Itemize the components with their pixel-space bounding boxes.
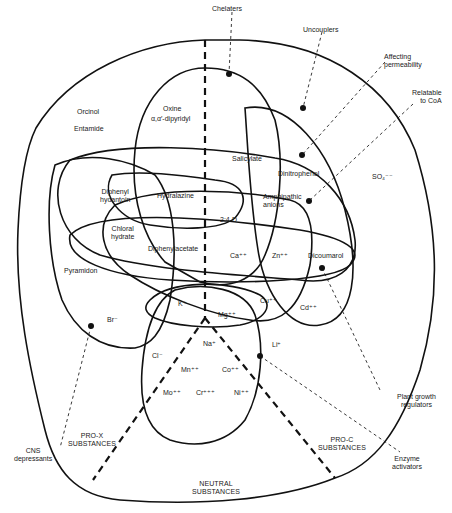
label-k: K⁺ xyxy=(178,300,187,308)
label-relatable-to-coa: Relatable to CoA xyxy=(412,89,442,105)
uncouplers-loop xyxy=(245,107,353,325)
label-ca: Ca⁺⁺ xyxy=(230,252,247,260)
label-mg: Mg⁺⁺ xyxy=(218,311,236,319)
region-pro-c: PRO-C SUBSTANCES xyxy=(318,436,366,452)
label-dinitrophenol: Dinitrophenol xyxy=(278,170,319,178)
label-mn: Mn⁺⁺ xyxy=(181,366,199,374)
label-entamide: Entamide xyxy=(74,125,104,133)
label-hydralazine: Hydralazine xyxy=(157,192,194,200)
label-salicylate: Salicylate xyxy=(232,155,262,163)
label-affecting-permeability: Affecting permeability xyxy=(384,53,422,69)
divider-right xyxy=(205,318,335,478)
label-plant-growth-regulators: Plant growth regulators xyxy=(397,393,436,409)
label-na: Na⁺ xyxy=(203,340,216,348)
label-cu: Cu⁺⁺ xyxy=(260,297,277,305)
label-uncouplers: Uncouplers xyxy=(303,26,338,34)
label-mo: Mo⁺⁺ xyxy=(163,389,181,397)
region-pro-x: PRO-X SUBSTANCES xyxy=(68,432,116,448)
label-ni: Ni⁺⁺ xyxy=(234,389,249,397)
label-br: Br⁻ xyxy=(107,316,118,324)
label-dicoumarol: Dicoumarol xyxy=(308,252,343,260)
label-dipyridyl: α,α′-dipyridyl xyxy=(151,115,190,123)
label-chelaters: Chelaters xyxy=(212,5,242,13)
label-diphenylacetate: Diphenylacetate xyxy=(148,245,198,253)
label-2-4-d: 2:4-D xyxy=(220,216,237,224)
label-cns-depressants: CNS depressants xyxy=(14,447,52,463)
label-pyramidon: Pyramidon xyxy=(64,267,97,275)
label-oxine: Oxine xyxy=(163,105,181,113)
label-cd: Cd⁺⁺ xyxy=(300,304,317,312)
label-li: Li⁺ xyxy=(272,341,281,349)
label-cr: Cr⁺⁺⁺ xyxy=(196,389,215,397)
venn-diagram: Chelaters Uncouplers Affecting permeabil… xyxy=(0,0,452,513)
label-chloral-hydrate: Chloral hydrate xyxy=(111,225,134,241)
label-so4: SO₄⁻⁻ xyxy=(372,173,393,181)
label-diphenyl-hydantoin: Diphenyl hydantoin xyxy=(100,188,130,204)
label-enzyme-activators: Enzyme activators xyxy=(392,455,422,471)
region-neutral: NEUTRAL SUBSTANCES xyxy=(192,480,240,496)
label-zn: Zn⁺⁺ xyxy=(272,252,288,260)
label-cl: Cl⁻ xyxy=(152,352,163,360)
label-amphipathic-anions: Amphipathic anions xyxy=(263,193,302,209)
label-co: Co⁺⁺ xyxy=(222,366,239,374)
label-orcinol: Orcinol xyxy=(77,108,99,116)
